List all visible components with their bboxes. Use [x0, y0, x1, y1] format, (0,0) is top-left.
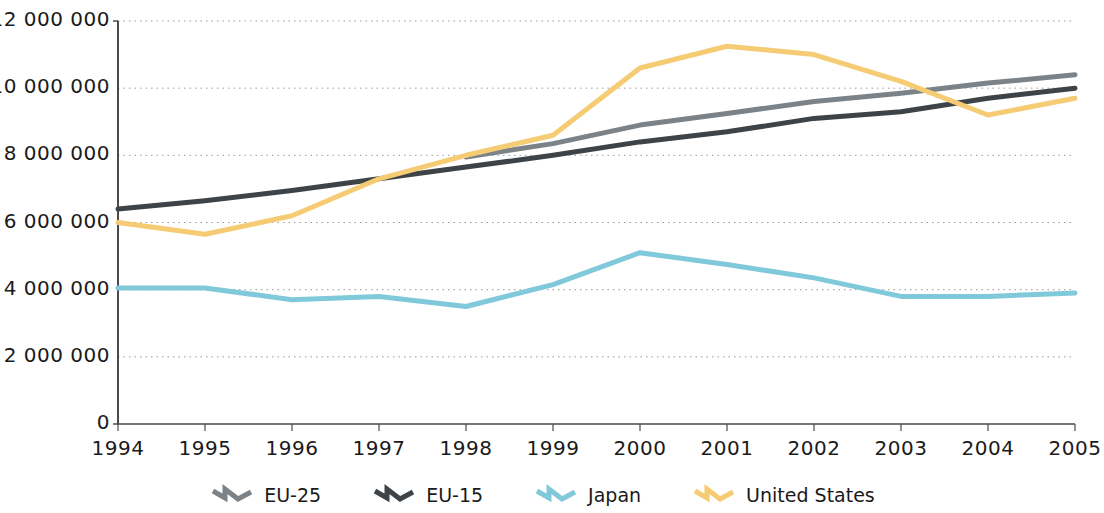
x-axis-tick-label: 1998 [421, 436, 511, 460]
y-axis-tick-label: 2 000 000 [4, 343, 110, 367]
x-axis-tick-label: 1999 [508, 436, 598, 460]
zigzag-line-icon [373, 483, 415, 507]
legend-item-japan[interactable]: Japan [535, 476, 693, 513]
x-axis-tick-label: 2004 [943, 436, 1033, 460]
x-axis-tick-label: 1997 [334, 436, 424, 460]
x-axis-tick-label: 2002 [769, 436, 859, 460]
y-axis-tick-label: 6 000 000 [4, 209, 110, 233]
x-axis-tick-label: 2003 [856, 436, 946, 460]
legend-label: EU-15 [426, 484, 483, 506]
x-axis-tick-label: 2005 [1030, 436, 1104, 460]
y-axis-tick-label: 8 000 000 [4, 141, 110, 165]
chart-legend: EU-25EU-15JapanUnited States [0, 476, 1086, 513]
legend-item-united-states[interactable]: United States [693, 476, 875, 513]
legend-label: United States [746, 484, 875, 506]
y-axis-tick-label: 12 000 000 [0, 7, 110, 31]
gridlines [118, 21, 1075, 357]
zigzag-line-icon [693, 483, 735, 507]
zigzag-line-icon [535, 483, 577, 507]
x-axis-tick-label: 2001 [682, 436, 772, 460]
series-line-united-states [118, 46, 1075, 234]
data-series-lines [118, 46, 1075, 306]
x-axis-tick-label: 1996 [247, 436, 337, 460]
series-line-japan [118, 253, 1075, 307]
legend-label: Japan [588, 484, 641, 506]
x-axis-tick-label: 1994 [73, 436, 163, 460]
x-axis-tick-label: 2000 [595, 436, 685, 460]
y-axis-tick-label: 4 000 000 [4, 276, 110, 300]
x-axis-tick-label: 1995 [160, 436, 250, 460]
x-axis-ticks [118, 424, 1075, 431]
zigzag-line-icon [211, 483, 253, 507]
legend-item-eu-15[interactable]: EU-15 [373, 476, 535, 513]
y-axis-tick-label: 0 [97, 410, 110, 434]
y-axis-tick-label: 10 000 000 [0, 74, 110, 98]
legend-label: EU-25 [264, 484, 321, 506]
legend-item-eu-25[interactable]: EU-25 [211, 476, 373, 513]
series-line-eu-15 [118, 88, 1075, 209]
